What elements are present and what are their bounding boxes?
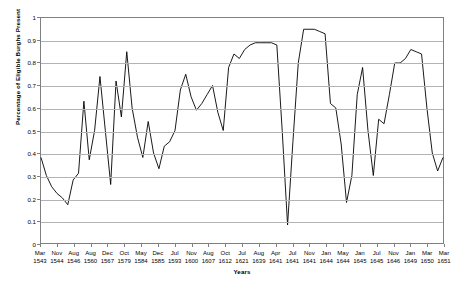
series-line-percentage-of-eligible-burghs-present <box>41 18 443 243</box>
x-axis-tick-year: 1612 <box>218 257 231 265</box>
x-axis-tick-year: 1644 <box>319 257 332 265</box>
x-axis-tickmark <box>208 244 209 247</box>
x-axis-tick-labels: Mar1543Nov1544Aug1546Aug1560Dec1567Oct15… <box>0 249 466 269</box>
gridline <box>41 86 443 87</box>
x-axis-tickmark <box>192 244 193 247</box>
y-axis-tick-labels: 10.90.80.70.60.50.40.30.20.10 <box>18 0 36 290</box>
y-axis-tick-label: 0 <box>18 241 36 248</box>
y-axis-tick-label: 0.8 <box>18 59 36 66</box>
x-axis-tick-year: 1600 <box>185 257 198 265</box>
x-axis-tickmark <box>57 244 58 247</box>
y-axis-tickmark <box>37 85 40 86</box>
x-axis-tickmark <box>326 244 327 247</box>
x-axis-tick-year: 1644 <box>336 257 349 265</box>
x-axis-tick-year: 1567 <box>101 257 114 265</box>
x-axis-tickmark <box>91 244 92 247</box>
y-axis-tickmark <box>37 176 40 177</box>
y-axis-tickmark <box>37 131 40 132</box>
gridline <box>41 177 443 178</box>
x-axis-tick-month: May <box>336 249 349 257</box>
x-axis-tick-year: 1607 <box>202 257 215 265</box>
y-axis-tickmark <box>37 17 40 18</box>
gridline <box>41 200 443 201</box>
x-axis-tickmark <box>175 244 176 247</box>
y-axis-tickmark <box>37 199 40 200</box>
x-axis-tickmark <box>74 244 75 247</box>
x-axis-tick-label: Apr1641 <box>269 249 282 265</box>
y-axis-tickmark <box>37 40 40 41</box>
x-axis-tickmark <box>225 244 226 247</box>
x-axis-title: Years <box>40 268 444 275</box>
x-axis-tick-month: Jul <box>168 249 181 257</box>
gridline <box>41 109 443 110</box>
x-axis-tick-label: Jan1644 <box>319 249 332 265</box>
x-axis-tick-month: Dec <box>101 249 114 257</box>
x-axis-tick-label: Aug1607 <box>202 249 215 265</box>
x-axis-tick-month: Mar <box>33 249 46 257</box>
x-axis-tick-month: Apr <box>269 249 282 257</box>
x-axis-tick-month: Aug <box>252 249 265 257</box>
x-axis-tick-label: Jul1645 <box>370 249 383 265</box>
y-axis-tickmark <box>37 62 40 63</box>
x-axis-tick-year: 1649 <box>404 257 417 265</box>
x-axis-tick-label: Dec1567 <box>101 249 114 265</box>
x-axis-tick-label: Jan1649 <box>404 249 417 265</box>
x-axis-tick-label: Nov1600 <box>185 249 198 265</box>
y-axis-tick-label: 0.3 <box>18 172 36 179</box>
x-axis-tick-year: 1585 <box>151 257 164 265</box>
x-axis-tick-label: Jul1621 <box>235 249 248 265</box>
x-axis-tick-month: Nov <box>387 249 400 257</box>
x-axis-tickmark <box>259 244 260 247</box>
x-axis-tick-year: 1650 <box>420 257 433 265</box>
x-axis-tick-month: Mar <box>437 249 450 257</box>
y-axis-tick-label: 0.4 <box>18 150 36 157</box>
x-axis-tick-year: 1646 <box>387 257 400 265</box>
x-axis-tick-year: 1641 <box>303 257 316 265</box>
x-axis-tick-label: Dec1585 <box>151 249 164 265</box>
x-axis-tick-year: 1621 <box>235 257 248 265</box>
x-axis-tick-label: Mar1650 <box>420 249 433 265</box>
x-axis-tick-label: Aug1546 <box>67 249 80 265</box>
x-axis-tick-year: 1639 <box>252 257 265 265</box>
x-axis-tick-label: Oct1579 <box>117 249 130 265</box>
y-axis-tick-label: 0.5 <box>18 127 36 134</box>
x-axis-tick-year: 1645 <box>353 257 366 265</box>
x-axis-tick-month: Nov <box>185 249 198 257</box>
y-axis-tick-label: 0.6 <box>18 104 36 111</box>
x-axis-tick-year: 1544 <box>50 257 63 265</box>
y-axis-tick-label: 0.7 <box>18 82 36 89</box>
x-axis-tick-label: Aug1560 <box>84 249 97 265</box>
x-axis-tick-year: 1651 <box>437 257 450 265</box>
x-axis-tick-year: 1560 <box>84 257 97 265</box>
y-axis-tick-label: 0.9 <box>18 36 36 43</box>
x-axis-tick-month: May <box>134 249 147 257</box>
x-axis-tick-label: Nov1544 <box>50 249 63 265</box>
gridline <box>41 63 443 64</box>
gridline <box>41 154 443 155</box>
x-axis-tick-month: Nov <box>303 249 316 257</box>
x-axis-tick-label: Oct1612 <box>218 249 231 265</box>
plot-area <box>40 17 444 244</box>
y-axis-tickmark <box>37 221 40 222</box>
x-axis-tickmark <box>158 244 159 247</box>
x-axis-tickmark <box>309 244 310 247</box>
x-axis-tick-label: Nov1646 <box>387 249 400 265</box>
x-axis-tick-month: Jan <box>404 249 417 257</box>
x-axis-tick-month: Aug <box>67 249 80 257</box>
y-axis-tick-label: 0.2 <box>18 195 36 202</box>
x-axis-tickmark <box>360 244 361 247</box>
x-axis-tick-year: 1579 <box>117 257 130 265</box>
x-axis-tick-year: 1593 <box>168 257 181 265</box>
y-axis-tickmark <box>37 108 40 109</box>
x-axis-tick-month: Oct <box>117 249 130 257</box>
x-axis-tickmark <box>242 244 243 247</box>
x-axis-tick-month: Aug <box>202 249 215 257</box>
x-axis-tick-label: Mar1651 <box>437 249 450 265</box>
x-axis-tick-year: 1641 <box>286 257 299 265</box>
x-axis-tickmark <box>124 244 125 247</box>
x-axis-tick-month: Dec <box>151 249 164 257</box>
x-axis-tick-label: Nov1641 <box>303 249 316 265</box>
gridline <box>41 222 443 223</box>
x-axis-tick-label: May1644 <box>336 249 349 265</box>
x-axis-tick-month: Jul <box>235 249 248 257</box>
